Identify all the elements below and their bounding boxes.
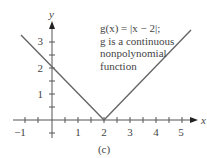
- x-tick-label: 3: [127, 126, 133, 138]
- x-tick-label: 4: [153, 126, 159, 138]
- y-tick-label: 3: [38, 35, 44, 47]
- figure-caption: (c): [98, 143, 111, 156]
- function-annotation: g(x) = |x − 2|; g is a continuous nonpol…: [100, 22, 174, 72]
- x-tick-label: 5: [178, 126, 184, 138]
- y-axis-label: y: [48, 8, 54, 20]
- x-tick-label: −1: [14, 126, 26, 138]
- x-axis-label: x: [200, 114, 206, 126]
- annotation-line-3: nonpolynomial: [100, 47, 174, 60]
- annotation-line-4: function: [100, 60, 174, 73]
- y-tick-label: 1: [38, 88, 44, 100]
- annotation-line-1: g(x) = |x − 2|;: [100, 22, 174, 35]
- annotation-line-2: g is a continuous: [100, 35, 174, 48]
- y-axis-arrow-icon: [49, 21, 55, 29]
- x-axis-arrow-icon: [190, 117, 198, 123]
- x-tick-label: 1: [75, 126, 81, 138]
- y-tick-label: 2: [38, 62, 44, 74]
- x-tick-label: 2: [101, 126, 107, 138]
